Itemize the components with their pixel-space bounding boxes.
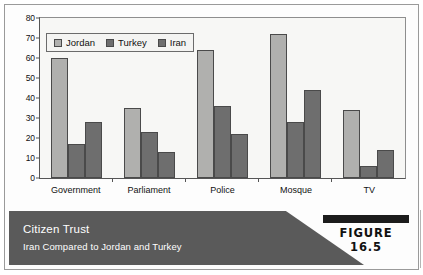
y-axis-tick-mark bbox=[36, 178, 40, 179]
x-axis-labels: GovernmentParliamentPoliceMosqueTV bbox=[39, 181, 406, 199]
y-axis-tick-mark bbox=[36, 158, 40, 159]
legend-item-iran[interactable]: Iran bbox=[158, 37, 186, 48]
y-axis-tick-mark bbox=[36, 118, 40, 119]
y-axis-tick-mark bbox=[36, 38, 40, 39]
y-axis-tick-label: 20 bbox=[26, 133, 35, 143]
legend-label-jordan: Jordan bbox=[66, 37, 95, 48]
legend-item-turkey[interactable]: Turkey bbox=[106, 37, 147, 48]
chart-legend: Jordan Turkey Iran bbox=[46, 33, 194, 52]
y-axis-tick-mark bbox=[36, 58, 40, 59]
x-axis-label-mosque: Mosque bbox=[259, 181, 332, 199]
caption-title: Citizen Trust bbox=[23, 223, 182, 235]
x-axis-label-government: Government bbox=[39, 181, 112, 199]
legend-swatch-iran bbox=[158, 39, 166, 47]
y-axis-tick-mark bbox=[36, 18, 40, 19]
x-axis-label-parliament: Parliament bbox=[112, 181, 185, 199]
bar-group bbox=[259, 18, 332, 178]
bar-turkey-mosque[interactable] bbox=[287, 122, 304, 178]
bar-turkey-tv[interactable] bbox=[360, 166, 377, 178]
figure-container: 01020304050607080 GovernmentParliamentPo… bbox=[0, 0, 423, 275]
bar-iran-mosque[interactable] bbox=[304, 90, 321, 178]
figure-badge-bar bbox=[323, 215, 409, 223]
y-axis-tick-mark bbox=[36, 98, 40, 99]
caption-text: Citizen Trust Iran Compared to Jordan an… bbox=[23, 223, 182, 252]
y-axis-tick-label: 50 bbox=[26, 73, 35, 83]
y-axis-tick-label: 80 bbox=[26, 13, 35, 23]
legend-label-turkey: Turkey bbox=[118, 37, 147, 48]
bar-iran-police[interactable] bbox=[231, 134, 248, 178]
bar-turkey-parliament[interactable] bbox=[141, 132, 158, 178]
bar-turkey-government[interactable] bbox=[68, 144, 85, 178]
y-axis-tick-label: 0 bbox=[30, 173, 35, 183]
legend-swatch-turkey bbox=[106, 39, 114, 47]
bar-jordan-government[interactable] bbox=[51, 58, 68, 178]
bar-jordan-mosque[interactable] bbox=[270, 34, 287, 178]
bar-iran-tv[interactable] bbox=[377, 150, 394, 178]
bar-jordan-parliament[interactable] bbox=[124, 108, 141, 178]
chart-plot-wrapper: 01020304050607080 GovernmentParliamentPo… bbox=[9, 9, 414, 201]
caption-band: Citizen Trust Iran Compared to Jordan an… bbox=[9, 211, 364, 265]
bar-group bbox=[186, 18, 259, 178]
legend-label-iran: Iran bbox=[170, 37, 186, 48]
y-axis-tick-mark bbox=[36, 138, 40, 139]
figure-number-label: FIGURE 16.5 bbox=[323, 226, 409, 254]
y-axis-tick-label: 10 bbox=[26, 153, 35, 163]
figure-badge: FIGURE 16.5 bbox=[323, 215, 409, 254]
caption-subtitle: Iran Compared to Jordan and Turkey bbox=[23, 241, 182, 252]
y-axis-tick-label: 40 bbox=[26, 93, 35, 103]
y-axis-tick-label: 60 bbox=[26, 53, 35, 63]
right-rule bbox=[420, 210, 421, 268]
y-axis-tick-mark bbox=[36, 78, 40, 79]
bar-jordan-tv[interactable] bbox=[343, 110, 360, 178]
bar-turkey-police[interactable] bbox=[214, 106, 231, 178]
legend-swatch-jordan bbox=[54, 39, 62, 47]
bar-jordan-police[interactable] bbox=[197, 50, 214, 178]
legend-item-jordan[interactable]: Jordan bbox=[54, 37, 95, 48]
y-axis-tick-label: 70 bbox=[26, 33, 35, 43]
bar-iran-government[interactable] bbox=[85, 122, 102, 178]
y-axis-tick-label: 30 bbox=[26, 113, 35, 123]
x-axis-label-tv: TV bbox=[333, 181, 406, 199]
bar-group bbox=[332, 18, 405, 178]
bar-iran-parliament[interactable] bbox=[158, 152, 175, 178]
x-axis-label-police: Police bbox=[186, 181, 259, 199]
